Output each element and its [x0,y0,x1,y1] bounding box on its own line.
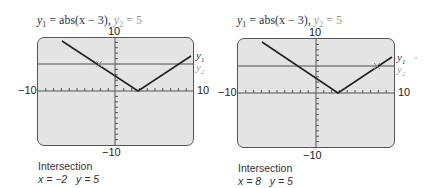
caption-y: y = 5 [76,173,99,185]
stray-mark [415,57,417,59]
caption-heading: Intersection [38,160,99,173]
intersection-caption: Intersection x = 8 y = 5 [238,162,293,188]
graph-panel-right: y1 = abs(x − 3), y2 = 5 10 −10 10 y1 y2 … [214,0,428,188]
y1-line [262,42,392,93]
caption-values: x = 8 y = 5 [238,175,293,188]
legend-y2: y2 [397,63,405,78]
caption-heading: Intersection [238,162,293,175]
graph-panel-left: y1 = abs(x − 3), y2 = 5 10 −10 10 y1 y2 … [0,0,214,188]
caption-values: x = −2 y = 5 [38,173,99,186]
y-min-label: −10 [102,146,121,158]
x-max-label: 10 [398,86,410,98]
x-min-label: −10 [218,86,237,98]
x-max-label: 10 [197,84,209,96]
legend-y2: y2 [196,61,204,76]
y1-line [62,41,191,91]
y-min-label: −10 [303,149,322,161]
intersection-caption: Intersection x = −2 y = 5 [38,160,99,186]
caption-y: y = 5 [270,175,293,187]
caption-x: x = 8 [238,175,261,187]
x-min-label: −10 [18,84,37,96]
caption-x: x = −2 [38,173,67,185]
